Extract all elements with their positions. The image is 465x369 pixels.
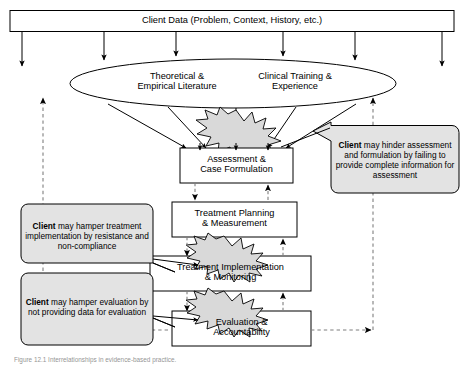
assessment-planning-links bbox=[195, 183, 268, 200]
callout-implementation-shape bbox=[21, 204, 175, 272]
callout-evaluation-shape bbox=[21, 273, 175, 345]
header-bus-line bbox=[22, 32, 442, 39]
knowledge-base-ellipse bbox=[70, 59, 396, 108]
figure-canvas: Client Data (Problem, Context, History, … bbox=[0, 0, 465, 369]
box-assessment bbox=[180, 148, 293, 183]
client-data-box bbox=[10, 11, 454, 32]
callout-assessment-shape bbox=[313, 122, 459, 193]
figure-caption: Figure 12.1 Interrelationships in eviden… bbox=[14, 356, 454, 364]
box-planning bbox=[172, 202, 297, 237]
diagram-vector-layer bbox=[0, 0, 465, 369]
